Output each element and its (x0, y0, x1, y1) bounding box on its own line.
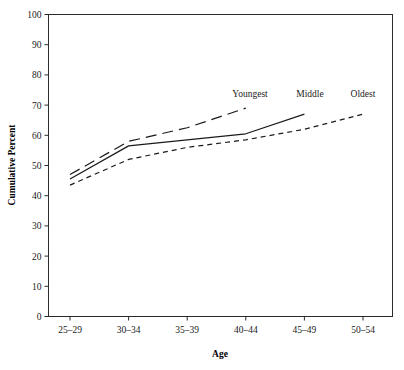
y-tick-label: 50 (32, 161, 42, 171)
y-tick-label: 80 (32, 70, 42, 80)
y-tick-label: 70 (32, 101, 42, 111)
x-tick-label: 30–34 (117, 325, 141, 335)
series-label-oldest: Oldest (351, 89, 376, 99)
series-label-middle: Middle (296, 89, 323, 99)
x-tick-label: 40–44 (234, 325, 258, 335)
y-tick-label: 30 (32, 221, 42, 231)
x-tick-label: 50–54 (351, 325, 375, 335)
y-tick-label: 20 (32, 252, 42, 262)
y-tick-label: 60 (32, 131, 42, 141)
cumulative-percent-line-chart: 0102030405060708090100 25–2930–3435–3940… (0, 0, 404, 370)
y-tick-label: 90 (32, 40, 42, 50)
x-tick-label: 45–49 (293, 325, 317, 335)
y-tick-label: 10 (32, 282, 42, 292)
x-tick-label: 25–29 (58, 325, 82, 335)
x-tick-label: 35–39 (175, 325, 199, 335)
plot-frame (49, 15, 393, 317)
y-tick-label: 100 (27, 10, 42, 20)
series-labels-group: YoungestMiddleOldest (232, 89, 375, 99)
y-axis-title: Cumulative Percent (7, 124, 17, 206)
data-series-group (70, 108, 363, 185)
series-label-youngest: Youngest (232, 89, 268, 99)
y-tick-label: 40 (32, 191, 42, 201)
y-tick-label: 0 (37, 312, 42, 322)
y-axis: 0102030405060708090100 (27, 10, 48, 322)
x-axis: 25–2930–3435–3940–4445–4950–54 (58, 317, 375, 335)
x-axis-title: Age (212, 349, 228, 359)
chart-container: 0102030405060708090100 25–2930–3435–3940… (0, 0, 404, 370)
series-line-oldest (70, 114, 363, 185)
